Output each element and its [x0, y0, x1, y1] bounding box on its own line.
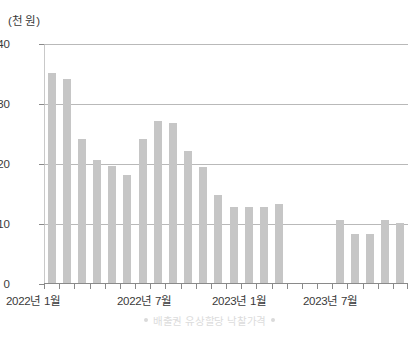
y-axis-unit-label: (천 원): [8, 12, 40, 28]
plot-area: [44, 44, 408, 284]
x-tick: [150, 284, 151, 289]
x-tick: [332, 284, 333, 289]
y-tick-label-40: 40: [0, 38, 10, 50]
x-tick: [363, 284, 364, 289]
x-tick: [44, 284, 45, 289]
x-tick: [241, 284, 242, 289]
x-tick: [165, 284, 166, 289]
x-axis-label-2: 2023년 1월: [212, 292, 267, 308]
x-tick: [407, 284, 408, 289]
bar: [139, 139, 147, 284]
x-axis-label-0: 2022년 1월: [6, 292, 61, 308]
x-tick: [135, 284, 136, 289]
emission-allowance-price-chart: (천 원) 010203040 2022년 1월 2022년 7월 2023년 …: [0, 0, 419, 339]
x-tick: [181, 284, 182, 289]
y-tick-mark-20: [39, 164, 44, 165]
x-tick: [347, 284, 348, 289]
x-tick: [378, 284, 379, 289]
legend-dot-right: [271, 318, 275, 322]
bar: [48, 73, 56, 284]
bar: [230, 207, 238, 284]
x-tick: [256, 284, 257, 289]
chart-legend: 배출권 유상할당 낙찰가격: [0, 313, 419, 328]
bar: [154, 121, 162, 284]
y-tick-label-30: 30: [0, 98, 10, 110]
bar: [381, 220, 389, 284]
x-tick: [59, 284, 60, 289]
legend-label: 배출권 유상할당 낙찰가격: [153, 315, 266, 327]
bar-series: [44, 44, 408, 284]
bar: [336, 220, 344, 284]
bar: [214, 195, 222, 284]
y-tick-mark-10: [39, 224, 44, 225]
x-tick: [105, 284, 106, 289]
x-tick: [302, 284, 303, 289]
x-tick: [287, 284, 288, 289]
bar: [275, 204, 283, 284]
x-tick: [120, 284, 121, 289]
y-tick-label-20: 20: [0, 158, 10, 170]
x-tick: [196, 284, 197, 289]
bar: [108, 166, 116, 284]
x-tick: [226, 284, 227, 289]
y-tick-label-0: 0: [0, 278, 10, 290]
bar: [63, 79, 71, 284]
bar: [78, 139, 86, 284]
x-tick: [272, 284, 273, 289]
x-tick: [317, 284, 318, 289]
x-axis-label-3: 2023년 7월: [303, 292, 358, 308]
y-tick-mark-40: [39, 44, 44, 45]
bar: [366, 234, 374, 284]
y-tick-label-10: 10: [0, 218, 10, 230]
x-axis-label-1: 2022년 7월: [117, 292, 172, 308]
x-tick: [211, 284, 212, 289]
bar: [351, 234, 359, 284]
bar: [93, 160, 101, 284]
bar: [123, 175, 131, 284]
bar: [245, 207, 253, 284]
bar: [199, 167, 207, 284]
x-axis-ticks: [44, 284, 408, 290]
x-tick: [393, 284, 394, 289]
bar: [260, 207, 268, 284]
y-tick-mark-30: [39, 104, 44, 105]
bar: [396, 223, 404, 284]
bar: [169, 123, 177, 284]
bar: [184, 151, 192, 284]
x-tick: [90, 284, 91, 289]
legend-dot-left: [144, 318, 148, 322]
x-tick: [74, 284, 75, 289]
